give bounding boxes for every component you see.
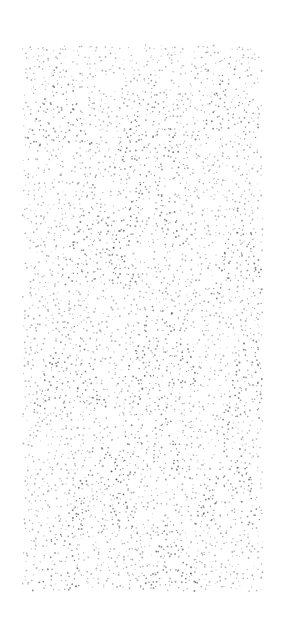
- stipple-artwork: [0, 0, 285, 622]
- stipple-canvas: [0, 0, 285, 622]
